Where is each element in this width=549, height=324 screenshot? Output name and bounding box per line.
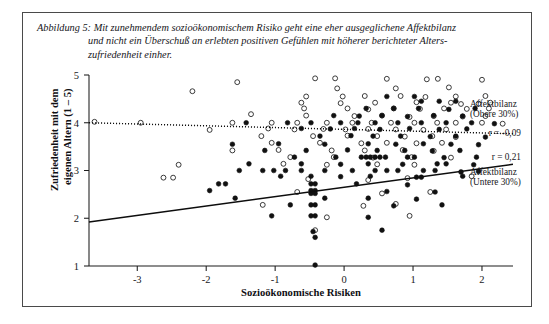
data-point: [335, 86, 340, 91]
data-point: [345, 148, 350, 153]
data-point: [414, 100, 419, 105]
data-point: [247, 161, 252, 166]
data-point: [171, 175, 176, 180]
data-point: [440, 140, 445, 145]
data-point: [235, 80, 240, 85]
legend-upper-label-line-1: Affektbilanz: [470, 99, 517, 109]
data-point: [352, 114, 357, 119]
data-point: [384, 168, 389, 173]
data-point: [304, 113, 309, 118]
correlation-upper: r = -0,09: [489, 128, 522, 138]
figure-frame: Abbildung 5: Mit zunehmendem sozioökonom…: [22, 12, 532, 307]
data-point: [474, 155, 479, 160]
data-point: [393, 142, 398, 147]
data-point: [313, 182, 318, 187]
data-point: [449, 142, 454, 147]
data-point: [428, 134, 433, 139]
data-point: [318, 134, 323, 139]
data-point: [237, 168, 242, 173]
data-point: [249, 112, 254, 117]
data-point: [333, 155, 338, 160]
data-point: [313, 214, 318, 219]
data-point: [378, 127, 383, 132]
data-point: [230, 142, 235, 147]
data-point: [469, 120, 474, 125]
data-point: [278, 174, 283, 179]
data-point: [412, 120, 417, 125]
data-point: [449, 100, 454, 105]
data-point: [304, 94, 309, 99]
data-point: [396, 168, 401, 173]
data-point: [368, 174, 373, 179]
data-point: [424, 77, 429, 82]
data-point: [190, 89, 195, 94]
data-point: [412, 155, 417, 160]
data-point: [345, 106, 350, 111]
data-point: [362, 148, 367, 153]
data-point: [331, 113, 336, 118]
data-point: [373, 168, 378, 173]
data-point: [373, 120, 378, 125]
data-point: [464, 127, 469, 132]
data-point: [480, 77, 485, 82]
data-point: [430, 149, 435, 154]
data-point: [313, 263, 318, 268]
data-point: [378, 155, 383, 160]
filled-circle-marker: [459, 170, 464, 175]
data-point: [366, 196, 371, 201]
data-point: [309, 174, 314, 179]
data-point: [322, 142, 327, 147]
data-point: [380, 113, 385, 118]
y-tick-label: 4: [74, 118, 80, 129]
data-point: [350, 120, 355, 125]
data-point: [433, 190, 438, 195]
x-axis-ticks: -3-2-1012: [133, 266, 485, 285]
x-tick-label: -2: [202, 274, 211, 285]
y-tick-label: 5: [74, 70, 79, 81]
y-tick-label: 2: [74, 213, 79, 224]
data-point: [391, 203, 396, 208]
x-tick-label: 0: [341, 274, 346, 285]
data-point: [412, 162, 417, 167]
data-point: [269, 140, 274, 145]
data-point: [176, 162, 181, 167]
data-point: [464, 106, 469, 111]
data-point: [356, 120, 361, 125]
data-point: [391, 106, 396, 111]
data-point: [359, 141, 364, 146]
data-point: [421, 141, 426, 146]
data-point: [428, 190, 433, 195]
data-point: [384, 76, 389, 81]
data-point: [375, 162, 380, 167]
data-point: [288, 203, 293, 208]
data-point: [480, 120, 485, 125]
data-point: [324, 215, 329, 220]
data-point: [318, 140, 323, 145]
data-point: [313, 203, 318, 208]
data-point: [375, 148, 380, 153]
data-point: [384, 189, 389, 194]
x-tick-label: 1: [410, 274, 415, 285]
data-point: [444, 120, 449, 125]
legend-upper-label-line-2: (Obere 30%): [470, 109, 518, 120]
data-point: [364, 106, 369, 111]
data-point: [384, 94, 389, 99]
data-point: [271, 168, 276, 173]
data-point: [423, 95, 428, 100]
data-point: [402, 148, 407, 153]
data-point: [366, 141, 371, 146]
data-point: [338, 120, 343, 125]
open-circle-marker: [459, 102, 464, 107]
data-point: [500, 121, 505, 126]
data-point: [359, 155, 364, 160]
data-point: [161, 175, 166, 180]
data-point: [333, 76, 338, 81]
x-tick-label: -1: [271, 274, 280, 285]
data-point: [233, 196, 238, 201]
data-point: [299, 168, 304, 173]
data-point: [276, 141, 281, 146]
data-point: [299, 161, 304, 166]
legend: Affektbilanz (Obere 30%) r = -0,09 r = 0…: [459, 99, 522, 188]
data-point: [416, 106, 421, 111]
data-point: [405, 155, 410, 160]
